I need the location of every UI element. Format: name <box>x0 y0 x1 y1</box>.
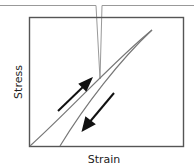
unloading-curve <box>60 30 152 146</box>
plot-frame <box>30 18 184 147</box>
loading-curve <box>30 30 152 146</box>
x-axis-label: Strain <box>88 153 121 166</box>
stress-strain-diagram: Stress Strain <box>0 0 194 167</box>
unloading-arrow <box>83 93 114 130</box>
y-axis-label: Stress <box>12 65 25 99</box>
hysteresis-curves <box>30 30 152 146</box>
